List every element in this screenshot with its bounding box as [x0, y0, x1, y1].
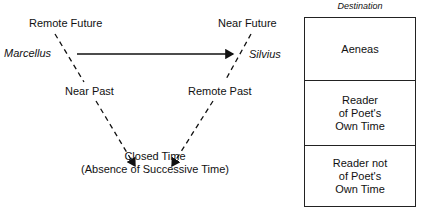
closed-time-label: Closed Time (Absence of Successive Time) [80, 150, 230, 176]
near-future-label: Near Future [218, 17, 277, 30]
destination-cell-reader-own-time: Reader of Poet's Own Time [305, 81, 415, 146]
remote-future-label: Remote Future [29, 17, 102, 30]
destination-cell-aeneas: Aeneas [305, 18, 415, 81]
cell-text: of Poet's [333, 170, 387, 183]
cell-text: Own Time [333, 183, 387, 196]
destination-cell-reader-not-own-time: Reader not of Poet's Own Time [305, 146, 415, 207]
remote-past-label: Remote Past [188, 85, 252, 98]
cell-text: Reader [335, 94, 385, 107]
cell-text: Reader not [333, 157, 387, 170]
destination-header: Destination [304, 1, 416, 11]
marcellus-label: Marcellus [4, 47, 51, 60]
near-past-label: Near Past [65, 85, 114, 98]
left-upper-dashed-line [55, 34, 84, 82]
closed-time-line1: Closed Time [80, 150, 230, 163]
cell-text: Own Time [335, 120, 385, 133]
right-upper-dashed-line [225, 34, 251, 81]
cell-text: of Poet's [335, 107, 385, 120]
destination-table: Aeneas Reader of Poet's Own Time Reader … [304, 17, 416, 207]
closed-time-line2: (Absence of Successive Time) [80, 163, 230, 176]
cell-text: Aeneas [341, 43, 378, 56]
silvius-label: Silvius [249, 48, 281, 61]
